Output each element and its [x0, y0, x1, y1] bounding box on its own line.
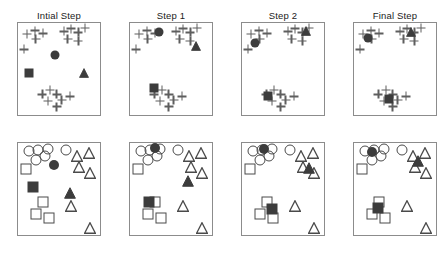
plus-marker	[131, 45, 140, 54]
plus-marker	[287, 34, 296, 43]
panel-title-top-step2: Step 2	[241, 10, 325, 21]
open-square-marker	[366, 209, 377, 220]
plus-marker	[39, 29, 48, 38]
plus-marker	[142, 26, 151, 35]
plus-marker	[52, 102, 61, 111]
plot-area-top-final	[354, 23, 436, 115]
open-square-marker	[20, 164, 31, 175]
open-circle-marker	[145, 144, 156, 155]
plus-marker	[157, 85, 166, 94]
open-circle-marker	[39, 151, 50, 162]
open-circle-marker	[155, 143, 166, 154]
open-circle-marker	[255, 154, 266, 165]
open-square-marker	[356, 164, 367, 175]
filled-triangle-centroid	[79, 68, 89, 78]
filled-triangle-centroid	[191, 41, 201, 51]
open-circle-marker	[143, 154, 154, 165]
panel-top-final: Final Step	[353, 22, 437, 116]
filled-circle-centroid	[364, 34, 373, 43]
plot-frame-bottom-initial	[17, 142, 101, 236]
plus-marker	[402, 92, 411, 101]
plus-marker	[399, 34, 408, 43]
open-triangle-marker	[185, 161, 197, 173]
open-square-marker	[262, 197, 273, 208]
panel-title-top-final: Final Step	[353, 10, 437, 21]
open-square-marker	[30, 209, 41, 220]
open-square-marker	[268, 213, 279, 224]
open-square-marker	[244, 164, 255, 175]
open-circle-marker	[369, 144, 380, 155]
plus-marker	[410, 28, 419, 37]
plus-marker	[417, 23, 426, 32]
filled-square-centroid	[24, 68, 33, 77]
open-triangle-marker	[420, 222, 432, 234]
filled-triangle-centroid	[301, 26, 311, 36]
open-triangle-marker	[65, 200, 77, 212]
plus-marker	[186, 28, 195, 37]
plus-marker	[359, 30, 368, 39]
open-circle-marker	[60, 144, 71, 155]
plus-marker	[410, 36, 419, 45]
open-circle-marker	[375, 151, 386, 162]
filled-circle-centroid	[259, 144, 269, 154]
filled-circle-centroid	[155, 28, 164, 37]
panel-title-top-initial: Intial Step	[17, 10, 101, 21]
open-circle-marker	[396, 144, 407, 155]
plus-marker	[254, 26, 263, 35]
open-circle-marker	[379, 143, 390, 154]
plot-frame-top-step2	[241, 22, 325, 116]
open-triangle-marker	[297, 161, 309, 173]
plus-marker	[298, 36, 307, 45]
open-circle-marker	[284, 144, 295, 155]
panel-title-top-step1: Step 1	[129, 10, 213, 21]
open-square-marker	[254, 209, 265, 220]
plot-area-bottom-final	[354, 143, 436, 235]
filled-square-centroid	[28, 182, 39, 193]
open-circle-marker	[247, 146, 258, 157]
open-triangle-marker	[308, 222, 320, 234]
open-triangle-marker	[295, 150, 307, 162]
open-square-marker	[374, 197, 385, 208]
open-circle-marker	[257, 144, 268, 155]
filled-triangle-centroid	[303, 162, 315, 174]
plus-marker	[143, 34, 152, 43]
open-triangle-marker	[307, 147, 319, 159]
plus-marker	[243, 45, 252, 54]
plot-area-bottom-step1	[130, 143, 212, 235]
open-triangle-marker	[407, 150, 419, 162]
plus-marker	[393, 96, 402, 105]
plus-marker	[305, 23, 314, 32]
plot-frame-top-initial	[17, 22, 101, 116]
plus-marker	[193, 23, 202, 32]
plus-marker	[367, 34, 376, 43]
plus-marker	[74, 28, 83, 37]
plot-frame-bottom-step1	[129, 142, 213, 236]
open-square-marker	[132, 164, 143, 175]
plus-marker	[164, 102, 173, 111]
plus-marker	[164, 90, 173, 99]
plus-marker	[44, 97, 53, 106]
open-triangle-marker	[420, 167, 432, 179]
open-square-marker	[38, 197, 49, 208]
plus-marker	[66, 92, 75, 101]
plus-marker	[388, 90, 397, 99]
open-circle-marker	[359, 146, 370, 157]
plus-marker	[178, 24, 187, 33]
open-triangle-marker	[409, 161, 421, 173]
open-circle-marker	[43, 143, 54, 154]
open-circle-marker	[267, 143, 278, 154]
plus-marker	[263, 29, 272, 38]
plus-marker	[63, 34, 72, 43]
panel-bottom-step1	[129, 142, 213, 236]
filled-circle-centroid	[251, 38, 260, 47]
plus-marker	[135, 30, 144, 39]
plus-marker	[284, 27, 293, 36]
open-circle-marker	[151, 151, 162, 162]
plus-marker	[276, 90, 285, 99]
plot-area-bottom-initial	[18, 143, 100, 235]
plus-marker	[57, 96, 66, 105]
plot-frame-top-final	[353, 22, 437, 116]
panel-bottom-step2	[241, 142, 325, 236]
panel-bottom-final	[353, 142, 437, 236]
plus-marker	[375, 29, 384, 38]
